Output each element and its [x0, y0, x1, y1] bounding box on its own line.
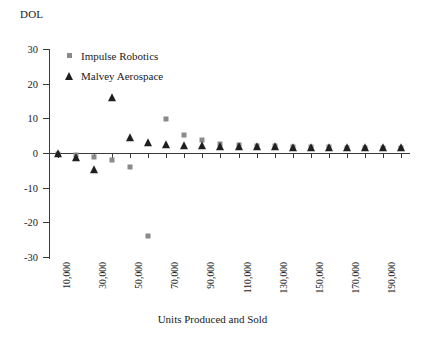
data-point-malvey-aerospace	[253, 143, 261, 151]
y-tick-label: -20	[24, 217, 38, 228]
chart-legend: Impulse Robotics Malvey Aerospace	[62, 47, 163, 87]
data-point-impulse-robotics	[146, 234, 151, 239]
x-tick-label: 170,000	[351, 262, 361, 294]
data-point-malvey-aerospace	[108, 93, 116, 101]
y-tick-label: 10	[28, 113, 39, 124]
y-tick-label: 0	[33, 148, 38, 159]
x-axis-title: Units Produced and Sold	[0, 313, 425, 325]
data-point-malvey-aerospace	[198, 142, 206, 150]
x-tick-label: 110,000	[243, 262, 253, 293]
legend-label: Impulse Robotics	[81, 50, 158, 62]
data-point-impulse-robotics	[92, 155, 97, 160]
legend-item-impulse-robotics: Impulse Robotics	[62, 47, 163, 64]
data-point-malvey-aerospace	[162, 140, 170, 148]
data-point-malvey-aerospace	[271, 143, 279, 151]
data-point-malvey-aerospace	[126, 133, 134, 141]
data-point-malvey-aerospace	[90, 166, 98, 174]
y-tick-label: -30	[24, 252, 38, 263]
data-point-malvey-aerospace	[72, 153, 80, 161]
square-marker-icon	[62, 53, 76, 58]
legend-item-malvey-aerospace: Malvey Aerospace	[62, 67, 163, 84]
y-tick-label: -10	[24, 182, 38, 193]
data-point-impulse-robotics	[128, 164, 133, 169]
x-tick-label: 130,000	[279, 262, 289, 294]
triangle-marker-icon	[62, 72, 76, 80]
x-tick-label: 10,000	[62, 262, 72, 289]
data-point-malvey-aerospace	[325, 143, 333, 151]
data-point-impulse-robotics	[164, 117, 169, 122]
y-tick-label: 20	[28, 78, 39, 89]
data-point-malvey-aerospace	[54, 150, 62, 158]
data-point-malvey-aerospace	[180, 141, 188, 149]
chart-container: DOL 3020100-10-20-30 10,00030,00050,0007…	[0, 0, 425, 344]
data-point-malvey-aerospace	[289, 143, 297, 151]
data-point-malvey-aerospace	[144, 138, 152, 146]
data-point-malvey-aerospace	[235, 142, 243, 150]
data-point-malvey-aerospace	[343, 143, 351, 151]
x-tick-label: 190,000	[387, 262, 397, 294]
data-point-impulse-robotics	[182, 132, 187, 137]
data-point-malvey-aerospace	[379, 144, 387, 152]
data-point-malvey-aerospace	[307, 143, 315, 151]
data-point-malvey-aerospace	[361, 143, 369, 151]
y-axis-title: DOL	[20, 8, 43, 20]
data-point-impulse-robotics	[110, 157, 115, 162]
x-tick-label: 50,000	[134, 262, 144, 289]
x-tick-label: 30,000	[98, 262, 108, 289]
data-point-malvey-aerospace	[216, 142, 224, 150]
x-tick-label: 150,000	[315, 262, 325, 294]
legend-label: Malvey Aerospace	[81, 70, 163, 82]
x-tick-label: 70,000	[170, 262, 180, 289]
y-tick-label: 30	[28, 44, 39, 55]
x-tick-label: 90,000	[206, 262, 216, 289]
data-point-malvey-aerospace	[397, 144, 405, 152]
